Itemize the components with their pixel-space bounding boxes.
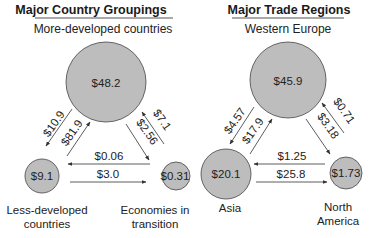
left-node-label: countries [24,218,71,230]
panel-title: Major Country Groupings [15,3,166,17]
flow-value: $3.18 [315,110,341,140]
right-node-label: Economies in [120,204,189,216]
node-value: $48.2 [92,77,121,89]
node-value: $45.9 [274,75,303,87]
panel-trade-regions: Major Trade Regions Western Europe $45.9… [201,3,362,227]
flow-value: $0.06 [95,150,124,162]
left-node-label: Asia [219,202,242,214]
node-value: $1.73 [332,167,361,179]
node-value: $20.1 [212,168,241,180]
flow-value: $7.1 [151,107,174,132]
flow-value: $1.25 [278,150,307,162]
flow-value: $25.8 [277,168,306,180]
node-value: $0.31 [161,170,190,182]
right-node-label: transition [132,218,179,230]
right-node-label: America [317,215,360,227]
panel-country-groupings: Major Country Groupings More-developed c… [6,3,190,230]
panel-title: Major Trade Regions [228,3,351,17]
right-node-label: North [324,201,352,213]
top-node-label: Western Europe [245,22,332,36]
top-node-label: More-developed countries [34,22,173,36]
trade-flow-diagram: Major Country Groupings More-developed c… [0,0,374,238]
flow-value: $3.0 [97,168,119,180]
flow-value: $17.9 [240,115,266,145]
node-value: $9.1 [31,170,53,182]
left-node-label: Less-developed [6,204,87,216]
